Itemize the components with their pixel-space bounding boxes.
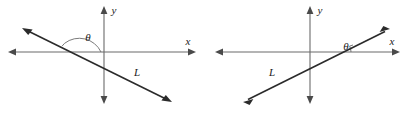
theta-label-left: θ bbox=[85, 31, 91, 43]
figure-root: x y θ L bbox=[0, 0, 408, 119]
x-axis-right bbox=[215, 49, 400, 56]
y-axis-right bbox=[307, 6, 314, 104]
diagram-panel-right: x y θ L bbox=[204, 0, 408, 119]
line-label-L-left: L bbox=[133, 66, 140, 78]
x-axis-left bbox=[8, 49, 196, 56]
x-axis-label-left: x bbox=[185, 35, 191, 47]
line-label-L-right: L bbox=[268, 66, 275, 78]
diagram-panel-left: x y θ L bbox=[0, 0, 204, 119]
line-L-left bbox=[22, 28, 172, 102]
y-axis-label-right: y bbox=[317, 4, 323, 16]
x-axis-label-right: x bbox=[389, 35, 395, 47]
y-axis-label-left: y bbox=[111, 4, 117, 16]
line-L-right bbox=[243, 26, 390, 105]
y-axis-left bbox=[101, 6, 108, 104]
theta-label-right: θ bbox=[343, 40, 349, 52]
